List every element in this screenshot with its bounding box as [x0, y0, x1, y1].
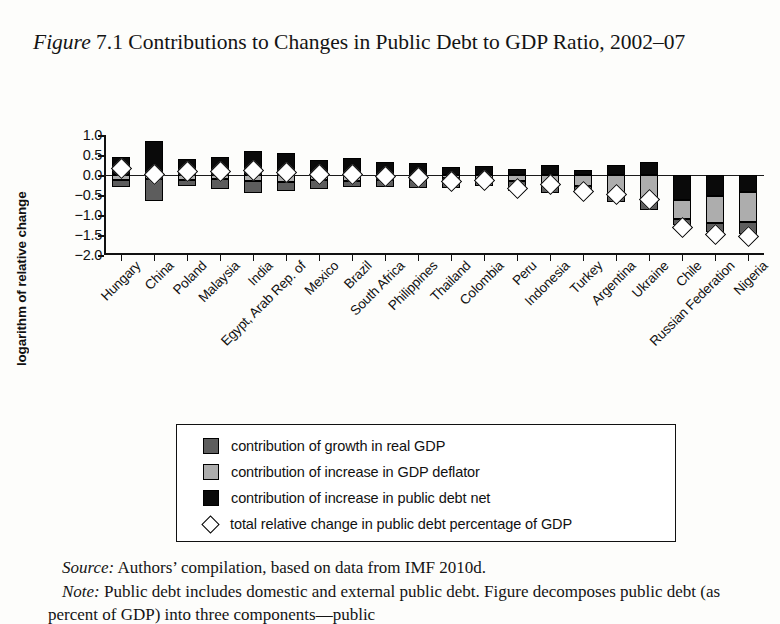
y-axis-tick: [98, 195, 104, 197]
note-label: Note:: [62, 582, 100, 601]
zero-reference-line: [104, 175, 764, 176]
figure-title-text: Contributions to Changes in Public Debt …: [128, 30, 685, 54]
bar-group[interactable]: [112, 135, 130, 255]
source-text: Authors’ compilation, based on data from…: [118, 558, 486, 577]
bar-group[interactable]: [343, 135, 361, 255]
source-label: Source:: [62, 558, 114, 577]
light-gray-square-icon: [203, 464, 219, 480]
x-tick-label: Hungary: [97, 258, 143, 304]
dark-gray-square-icon: [203, 438, 219, 454]
y-axis-tick: [98, 175, 104, 177]
legend-item-label: total relative change in public debt per…: [230, 516, 572, 532]
bar-group[interactable]: [640, 135, 658, 255]
bar-group[interactable]: [541, 135, 559, 255]
bar-segment-growth: [244, 181, 262, 193]
bar-segment-debtnet: [739, 175, 757, 192]
bar-group[interactable]: [277, 135, 295, 255]
y-axis-tick: [98, 255, 104, 257]
white-diamond-icon: [201, 515, 219, 533]
black-square-icon: [203, 490, 219, 506]
bar-segment-deflator: [706, 196, 724, 223]
figure-number: 7.1: [96, 30, 123, 54]
note-text: Public debt includes domestic and extern…: [48, 582, 720, 624]
legend-item[interactable]: contribution of increase in GDP deflator: [203, 459, 675, 485]
bar-group[interactable]: [739, 135, 757, 255]
y-axis-tick: [98, 215, 104, 217]
note-line: Note: Public debt includes domestic and …: [48, 580, 762, 624]
source-line: Source: Authors’ compilation, based on d…: [48, 556, 762, 580]
chart-legend: contribution of growth in real GDPcontri…: [176, 424, 676, 542]
bar-group[interactable]: [673, 135, 691, 255]
y-axis-tick: [98, 235, 104, 237]
y-axis-tick: [98, 135, 104, 137]
legend-item-label: contribution of increase in public debt …: [231, 490, 490, 506]
bar-segment-debtnet: [640, 162, 658, 175]
bar-segment-deflator: [739, 192, 757, 222]
legend-item-label: contribution of increase in GDP deflator: [231, 464, 480, 480]
bar-group[interactable]: [178, 135, 196, 255]
figure-label: Figure: [33, 30, 91, 54]
chart: logarithm of relative change 1.00.50.0−0…: [0, 118, 780, 418]
bar-segment-deflator: [673, 200, 691, 219]
y-axis-line: [104, 135, 106, 255]
y-axis-label: logarithm of relative change: [14, 246, 32, 366]
bar-group[interactable]: [244, 135, 262, 255]
x-axis-line: [104, 253, 764, 255]
bar-group[interactable]: [706, 135, 724, 255]
y-axis-tick: [98, 155, 104, 157]
bar-group[interactable]: [607, 135, 625, 255]
plot-area: [104, 135, 764, 255]
bar-segment-growth: [277, 182, 295, 191]
bar-segment-debtnet: [706, 175, 724, 196]
bar-group[interactable]: [310, 135, 328, 255]
bar-group[interactable]: [508, 135, 526, 255]
bar-segment-debtnet: [673, 175, 691, 200]
x-tick-label: Mexico: [301, 258, 341, 298]
figure-footnotes: Source: Authors’ compilation, based on d…: [48, 556, 762, 624]
bar-group[interactable]: [574, 135, 592, 255]
figure-page: Figure 7.1 Contributions to Changes in P…: [0, 0, 780, 624]
bar-segment-growth: [112, 180, 130, 187]
legend-item[interactable]: contribution of increase in public debt …: [203, 485, 675, 511]
y-axis-tick-labels: 1.00.50.0−0.5−1.0−1.5−2.0: [56, 118, 102, 268]
x-tick-label: Nigeria: [730, 258, 770, 298]
x-axis-tick-labels: HungaryChinaPolandMalaysiaIndiaEgypt, Ar…: [104, 258, 780, 368]
bar-group[interactable]: [475, 135, 493, 255]
legend-item[interactable]: contribution of growth in real GDP: [203, 433, 675, 459]
bar-group[interactable]: [211, 135, 229, 255]
bar-group[interactable]: [145, 135, 163, 255]
legend-item[interactable]: total relative change in public debt per…: [203, 511, 675, 537]
bar-group[interactable]: [409, 135, 427, 255]
bar-segment-debtnet: [607, 165, 625, 175]
page-title: Figure 7.1 Contributions to Changes in P…: [33, 28, 733, 57]
legend-item-label: contribution of growth in real GDP: [231, 438, 445, 454]
bar-group[interactable]: [376, 135, 394, 255]
bar-group[interactable]: [442, 135, 460, 255]
